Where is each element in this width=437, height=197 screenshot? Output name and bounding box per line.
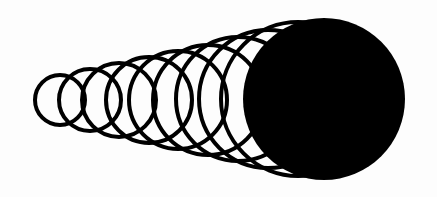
- overlapping-circles-diagram: [0, 0, 437, 197]
- filled-circle: [243, 18, 405, 180]
